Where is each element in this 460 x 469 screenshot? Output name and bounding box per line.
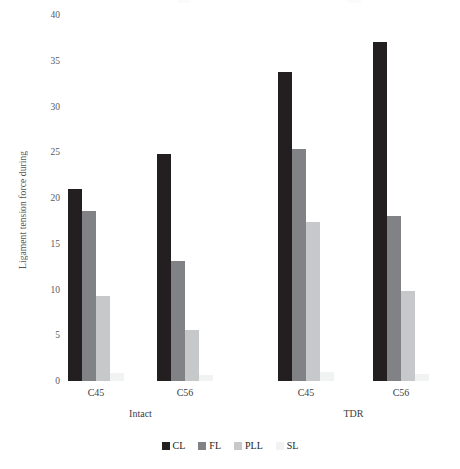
y-axis-tick-30: 30 bbox=[26, 102, 60, 112]
bar-chart-figure: Ligament tension force during 0510152025… bbox=[0, 0, 460, 469]
cropped-bar-remnant bbox=[348, 0, 361, 3]
cropped-bar-remnant bbox=[178, 0, 191, 3]
bar-fl-group4 bbox=[387, 216, 401, 381]
legend-label-fl: FL bbox=[209, 440, 221, 451]
x-axis-sub-label-2: C56 bbox=[150, 387, 220, 398]
y-axis-tick-35: 35 bbox=[26, 56, 60, 66]
legend-swatch-icon-fl bbox=[198, 442, 206, 450]
legend-item-cl: CL bbox=[162, 440, 186, 451]
bar-fl-group1 bbox=[82, 211, 96, 381]
bar-cl-group1 bbox=[68, 189, 82, 381]
legend-label-sl: SL bbox=[287, 440, 299, 451]
chart-legend: CL FL PLL SL bbox=[0, 440, 460, 451]
bar-group-3 bbox=[278, 15, 334, 381]
y-axis-tick-40: 40 bbox=[26, 10, 60, 20]
bar-group-2 bbox=[157, 15, 213, 381]
y-axis-tick-25: 25 bbox=[26, 147, 60, 157]
x-axis-group-label-tdr: TDR bbox=[309, 408, 399, 419]
legend-item-sl: SL bbox=[276, 440, 299, 451]
x-axis-sub-label-4: C56 bbox=[366, 387, 436, 398]
bar-sl-group4 bbox=[415, 374, 429, 381]
x-axis-sub-label-1: C45 bbox=[61, 387, 131, 398]
legend-swatch-icon-sl bbox=[276, 442, 284, 450]
y-axis-tick-20: 20 bbox=[26, 193, 60, 203]
legend-item-fl: FL bbox=[198, 440, 221, 451]
legend-swatch-icon-cl bbox=[162, 442, 170, 450]
bar-pll-group2 bbox=[185, 330, 199, 381]
y-axis-tick-5: 5 bbox=[26, 330, 60, 340]
bar-cl-group4 bbox=[373, 42, 387, 381]
bar-group-1 bbox=[68, 15, 124, 381]
bar-cl-group3 bbox=[278, 72, 292, 381]
legend-item-pll: PLL bbox=[234, 440, 263, 451]
y-axis-tick-0: 0 bbox=[26, 376, 60, 386]
legend-swatch-icon-pll bbox=[234, 442, 242, 450]
bar-fl-group3 bbox=[292, 149, 306, 381]
bar-fl-group2 bbox=[171, 261, 185, 381]
plot-area bbox=[62, 15, 452, 381]
bar-sl-group2 bbox=[199, 375, 213, 381]
bar-sl-group3 bbox=[320, 372, 334, 381]
bar-pll-group4 bbox=[401, 291, 415, 381]
bar-pll-group3 bbox=[306, 222, 320, 381]
x-axis-sub-label-3: C45 bbox=[271, 387, 341, 398]
x-axis-group-label-intact: Intact bbox=[96, 408, 186, 419]
y-axis-tick-10: 10 bbox=[26, 285, 60, 295]
bar-sl-group1 bbox=[110, 373, 124, 381]
legend-label-pll: PLL bbox=[245, 440, 263, 451]
bar-cl-group2 bbox=[157, 154, 171, 381]
y-axis-tick-15: 15 bbox=[26, 239, 60, 249]
y-axis-tick-labels: 0510152025303540 bbox=[26, 0, 60, 469]
bar-pll-group1 bbox=[96, 296, 110, 381]
bar-group-4 bbox=[373, 15, 429, 381]
legend-label-cl: CL bbox=[173, 440, 186, 451]
